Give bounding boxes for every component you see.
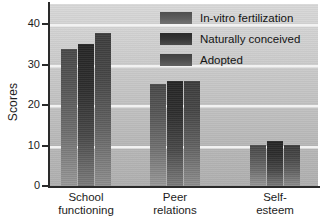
x-axis-category-label: Schoolfunctioning <box>36 191 136 217</box>
bar-texture <box>61 49 77 187</box>
bar <box>95 33 111 187</box>
category-label-line: relations <box>125 204 225 217</box>
bar <box>250 145 266 187</box>
x-axis-line <box>48 186 320 188</box>
y-axis-tick-label: 0 <box>2 180 40 191</box>
bar <box>267 141 283 187</box>
y-axis-tick <box>42 23 49 25</box>
bar <box>150 84 166 187</box>
bar-chart-figure: 010203040 Scores SchoolfunctioningPeerre… <box>0 0 324 221</box>
legend-label: In-vitro fertilization <box>200 11 293 25</box>
legend-swatch <box>160 12 192 24</box>
category-label-line: Self- <box>225 191 324 204</box>
legend-swatch <box>160 54 192 66</box>
y-axis-tick <box>42 64 49 66</box>
bar-texture <box>184 81 200 187</box>
legend-label: Naturally conceived <box>200 32 300 46</box>
legend-swatch <box>160 33 192 45</box>
bar-texture <box>78 44 94 187</box>
bar-texture <box>95 33 111 187</box>
bar <box>78 44 94 187</box>
x-axis-category-label: Self-esteem <box>225 191 324 217</box>
bar-texture <box>250 145 266 187</box>
y-axis-tick-label: 10 <box>2 140 40 151</box>
y-axis-tick <box>42 185 49 187</box>
category-label-line: esteem <box>225 204 324 217</box>
bar <box>184 81 200 187</box>
bar <box>61 49 77 187</box>
bar-texture <box>150 84 166 187</box>
x-axis-category-label: Peerrelations <box>125 191 225 217</box>
y-axis-title: Scores <box>6 67 20 137</box>
y-axis-line <box>48 2 50 188</box>
category-label-line: functioning <box>36 204 136 217</box>
category-label-line: Peer <box>125 191 225 204</box>
bar <box>167 81 183 187</box>
bar-texture <box>167 81 183 187</box>
bar <box>284 145 300 187</box>
bar-texture <box>284 145 300 187</box>
category-label-line: School <box>36 191 136 204</box>
y-axis-tick <box>42 104 49 106</box>
y-axis-tick-label: 40 <box>2 18 40 29</box>
legend-label: Adopted <box>200 53 243 67</box>
y-axis-tick <box>42 145 49 147</box>
bar-texture <box>267 141 283 187</box>
